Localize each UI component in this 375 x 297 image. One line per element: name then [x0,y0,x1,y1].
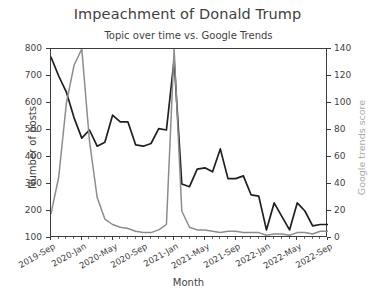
series-line-google-trends-score [51,49,328,235]
chart-subtitle: Topic over time vs. Google Trends [50,30,327,41]
chart-figure: Impeachment of Donald Trump Topic over t… [0,0,375,297]
plot-area [50,48,327,237]
y-axis-left-tick-label: 500 [25,124,42,134]
y-axis-left-tick-label: 200 [25,205,42,215]
y-axis-right-tick-label: 20 [334,205,345,215]
y-axis-right-tick-label: 60 [334,151,345,161]
y-axis-left-tick-label: 300 [25,178,42,188]
plot-svg [51,49,328,238]
y-axis-right-tick-label: 140 [334,43,351,53]
chart-title: Impeachment of Donald Trump [0,6,375,22]
y-axis-right-tick-label: 120 [334,70,351,80]
y-axis-right-tick-label: 0 [334,232,340,242]
y-axis-left-tick-label: 100 [25,232,42,242]
y-axis-label-right: Google trends score [356,83,367,213]
series-line-number-of-posts [51,57,328,230]
y-axis-left-tick-label: 800 [25,43,42,53]
y-axis-right-tick-label: 80 [334,124,345,134]
y-axis-left-tick-label: 400 [25,151,42,161]
x-axis-label: Month [50,277,327,288]
y-axis-right-tick-label: 40 [334,178,345,188]
y-axis-left-tick-label: 600 [25,97,42,107]
y-axis-right-tick-label: 100 [334,97,351,107]
y-axis-left-tick-label: 700 [25,70,42,80]
